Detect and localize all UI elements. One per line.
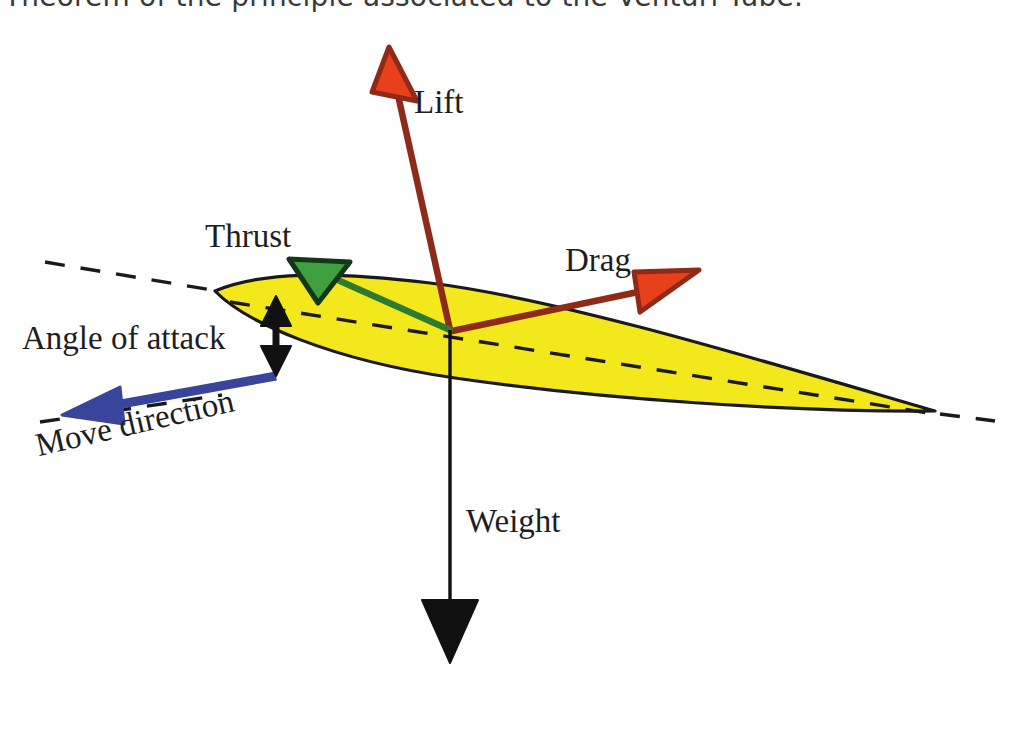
diagram-page: Theorem of the principle associated to t… — [0, 0, 1018, 740]
label-thrust: Thrust — [205, 218, 291, 255]
label-weight: Weight — [466, 503, 561, 540]
label-angle-of-attack: Angle of attack — [22, 320, 225, 357]
relative-wind-reference-line — [45, 262, 218, 291]
label-drag: Drag — [565, 242, 631, 279]
label-lift: Lift — [414, 84, 463, 121]
airfoil-force-diagram: .dash { stroke:#1a1a1a; stroke-width:3.4… — [0, 0, 1018, 740]
